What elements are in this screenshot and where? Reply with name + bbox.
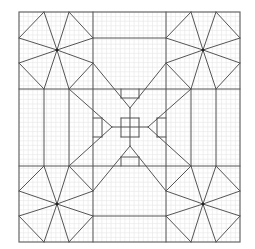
pattern-segment bbox=[166, 166, 191, 191]
pattern-segment bbox=[57, 50, 93, 63]
pattern-segment bbox=[203, 166, 216, 204]
pattern-segment bbox=[166, 216, 191, 242]
pattern-segment bbox=[166, 12, 191, 38]
pattern-segment bbox=[69, 216, 93, 242]
pattern-segment bbox=[44, 50, 57, 89]
pattern-segment bbox=[19, 12, 44, 38]
pattern-segment bbox=[191, 50, 203, 89]
pattern-segment bbox=[203, 50, 216, 89]
top-right-star-center-dot bbox=[202, 49, 205, 52]
pattern-segment bbox=[19, 216, 44, 242]
pattern-segment bbox=[216, 216, 240, 242]
pattern-segment bbox=[69, 127, 112, 166]
pattern-segment bbox=[191, 166, 203, 204]
pattern-segment bbox=[57, 50, 69, 89]
bottom-right-star-center-dot bbox=[202, 203, 205, 206]
pattern-segment bbox=[69, 12, 93, 38]
pattern-segment bbox=[216, 166, 240, 191]
quilt-block-diagram bbox=[0, 0, 255, 249]
pattern-segment bbox=[216, 12, 240, 38]
pattern-segment bbox=[57, 191, 93, 204]
pattern-segment bbox=[19, 166, 44, 191]
pattern-segment bbox=[44, 166, 57, 204]
bottom-left-star-center-dot bbox=[56, 203, 59, 206]
pattern-segment bbox=[57, 166, 69, 204]
top-left-star-center-dot bbox=[56, 49, 59, 52]
pattern-segment bbox=[69, 166, 93, 191]
